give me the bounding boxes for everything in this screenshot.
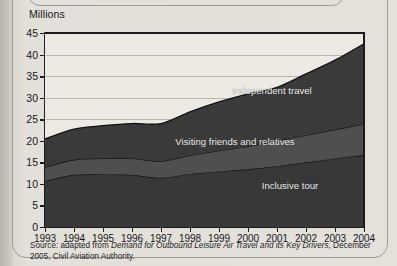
y-tick-label-10: 10 <box>0 178 38 190</box>
x-tick-1995 <box>103 227 104 232</box>
y-tick-15 <box>40 162 45 163</box>
x-tick-1993 <box>45 227 46 232</box>
y-tick-40 <box>40 55 45 56</box>
x-tick-2004 <box>364 227 365 232</box>
label-visiting-friends-and-relatives: Visiting friends and relatives <box>175 136 294 147</box>
y-axis-line <box>44 32 46 228</box>
plot-right-rule <box>363 32 365 228</box>
x-tick-1997 <box>161 227 162 232</box>
x-tick-2000 <box>248 227 249 232</box>
y-tick-label-20: 20 <box>0 135 38 147</box>
x-tick-2002 <box>306 227 307 232</box>
y-tick-10 <box>40 184 45 185</box>
y-tick-30 <box>40 98 45 99</box>
y-tick-label-5: 5 <box>0 199 38 211</box>
y-tick-label-25: 25 <box>0 113 38 125</box>
x-tick-1998 <box>190 227 191 232</box>
y-tick-label-35: 35 <box>0 70 38 82</box>
y-tick-label-15: 15 <box>0 156 38 168</box>
y-tick-label-0: 0 <box>0 221 38 233</box>
x-tick-1996 <box>132 227 133 232</box>
y-tick-label-40: 40 <box>0 49 38 61</box>
source-caption: Source: adapted from Demand for Outbound… <box>30 240 380 262</box>
x-axis-line <box>44 227 365 229</box>
label-independent-travel: Independent travel <box>232 85 311 96</box>
plot-top-rule <box>45 32 364 34</box>
x-tick-1999 <box>219 227 220 232</box>
y-tick-20 <box>40 141 45 142</box>
y-tick-label-30: 30 <box>0 92 38 104</box>
y-tick-5 <box>40 205 45 206</box>
label-inclusive-tour: Inclusive tour <box>262 180 319 191</box>
x-tick-2003 <box>335 227 336 232</box>
y-tick-label-45: 45 <box>0 27 38 39</box>
x-tick-1994 <box>74 227 75 232</box>
x-tick-2001 <box>277 227 278 232</box>
y-tick-25 <box>40 119 45 120</box>
y-axis-unit-label: Millions <box>29 8 65 20</box>
stacked-area-chart <box>45 33 364 227</box>
y-tick-45 <box>40 33 45 34</box>
source-title: Demand for Outbound Leisure Air Travel a… <box>111 241 329 250</box>
y-tick-35 <box>40 76 45 77</box>
source-prefix: Source: adapted from <box>30 241 111 250</box>
